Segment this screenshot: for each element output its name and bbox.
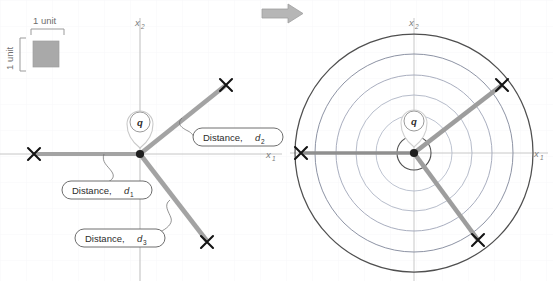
left-origin-dot bbox=[136, 150, 144, 158]
legend-horizontal-label: 1 unit bbox=[33, 15, 57, 26]
callout-d1-sub: 1 bbox=[130, 191, 134, 198]
callout-d3-sub: 3 bbox=[143, 239, 147, 246]
callout-d2-text: Distance, bbox=[203, 132, 243, 143]
left-query-point-label: q bbox=[137, 117, 143, 128]
right-origin-dot bbox=[410, 149, 418, 157]
diagram-canvas: 1 unit 1 unit x 2 x 1 bbox=[0, 0, 553, 281]
left-axis-y-sub: 2 bbox=[140, 23, 145, 30]
diagram-svg: 1 unit 1 unit x 2 x 1 bbox=[0, 0, 553, 281]
callout-d1: Distance, d 1 bbox=[62, 181, 152, 199]
left-axis-x-sub: 1 bbox=[272, 155, 276, 162]
callout-d2: Distance, d 2 bbox=[193, 128, 283, 146]
callout-d1-text: Distance, bbox=[72, 185, 112, 196]
callout-d3: Distance, d 3 bbox=[75, 229, 165, 247]
callout-d3-text: Distance, bbox=[85, 233, 125, 244]
right-query-point-label: q bbox=[411, 116, 417, 127]
right-axis-x-sub: 1 bbox=[540, 154, 544, 161]
legend-vertical-label: 1 unit bbox=[4, 46, 15, 70]
legend-unit-square bbox=[33, 41, 59, 67]
callout-d2-sub: 2 bbox=[261, 138, 265, 145]
right-axis-y-sub: 2 bbox=[414, 23, 419, 30]
